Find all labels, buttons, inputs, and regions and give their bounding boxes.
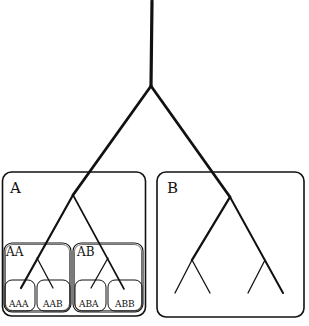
tree-branches xyxy=(21,1,283,293)
group-boxes xyxy=(3,172,305,317)
label-AAA: AAA xyxy=(9,300,29,309)
label-B: B xyxy=(167,181,178,196)
tree-diagram xyxy=(0,0,309,326)
label-ABB: ABB xyxy=(115,300,135,309)
label-ABA: ABA xyxy=(79,300,99,309)
label-A: A xyxy=(10,181,21,196)
label-AB: AB xyxy=(77,246,94,258)
label-AA: AA xyxy=(6,246,23,258)
box-B xyxy=(157,172,304,317)
label-AAB: AAB xyxy=(43,300,63,309)
